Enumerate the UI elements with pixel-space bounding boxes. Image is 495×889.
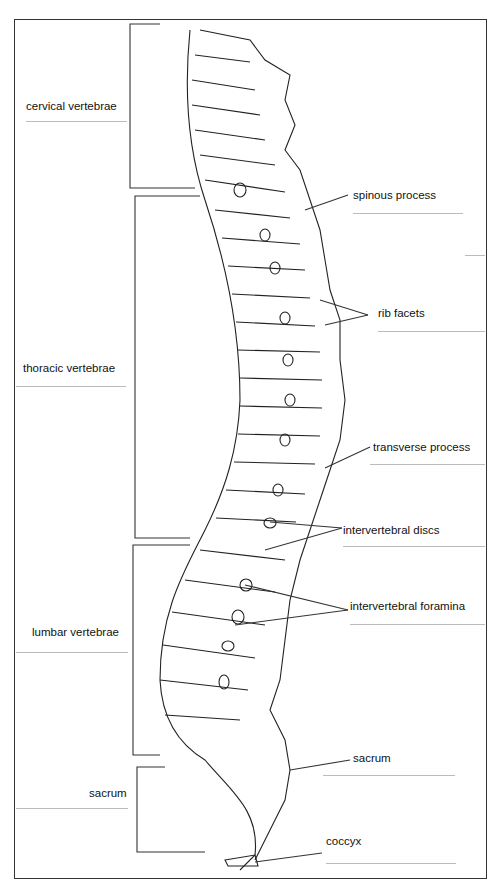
answer-line: [16, 652, 128, 653]
answer-line: [343, 546, 485, 547]
answer-line: [26, 121, 127, 122]
region-brackets: [130, 24, 205, 852]
label-intervertebral-foramina: intervertebral foramina: [350, 600, 465, 612]
label-coccyx: coccyx: [326, 835, 361, 847]
answer-line: [16, 808, 128, 809]
answer-line: [370, 464, 485, 465]
answer-line: [323, 775, 455, 776]
label-sacrum-left: sacrum: [89, 787, 127, 799]
vertebral-column: [160, 30, 345, 870]
answer-line: [353, 213, 463, 214]
label-intervertebral-discs: intervertebral discs: [343, 524, 440, 536]
label-spinous-process: spinous process: [353, 189, 436, 201]
answer-line: [465, 255, 485, 256]
label-lumbar-vertebrae: lumbar vertebrae: [32, 626, 119, 638]
label-sacrum-right: sacrum: [353, 752, 391, 764]
label-transverse-process: transverse process: [373, 441, 470, 453]
label-cervical-vertebrae: cervical vertebrae: [26, 100, 117, 112]
answer-line: [378, 331, 485, 332]
answer-line: [326, 863, 456, 864]
answer-line: [16, 386, 126, 387]
answer-line: [350, 624, 485, 625]
label-thoracic-vertebrae: thoracic vertebrae: [23, 362, 115, 374]
label-rib-facets: rib facets: [378, 307, 425, 319]
